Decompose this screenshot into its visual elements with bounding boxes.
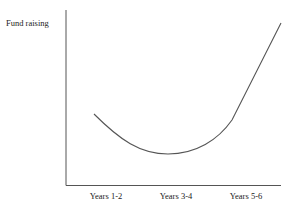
x-tick-years-3-4: Years 3-4 <box>160 191 192 201</box>
chart-area <box>0 0 296 211</box>
x-tick-years-1-2: Years 1-2 <box>90 191 122 201</box>
fund-raising-curve <box>94 23 281 154</box>
x-tick-years-5-6: Years 5-6 <box>230 191 262 201</box>
